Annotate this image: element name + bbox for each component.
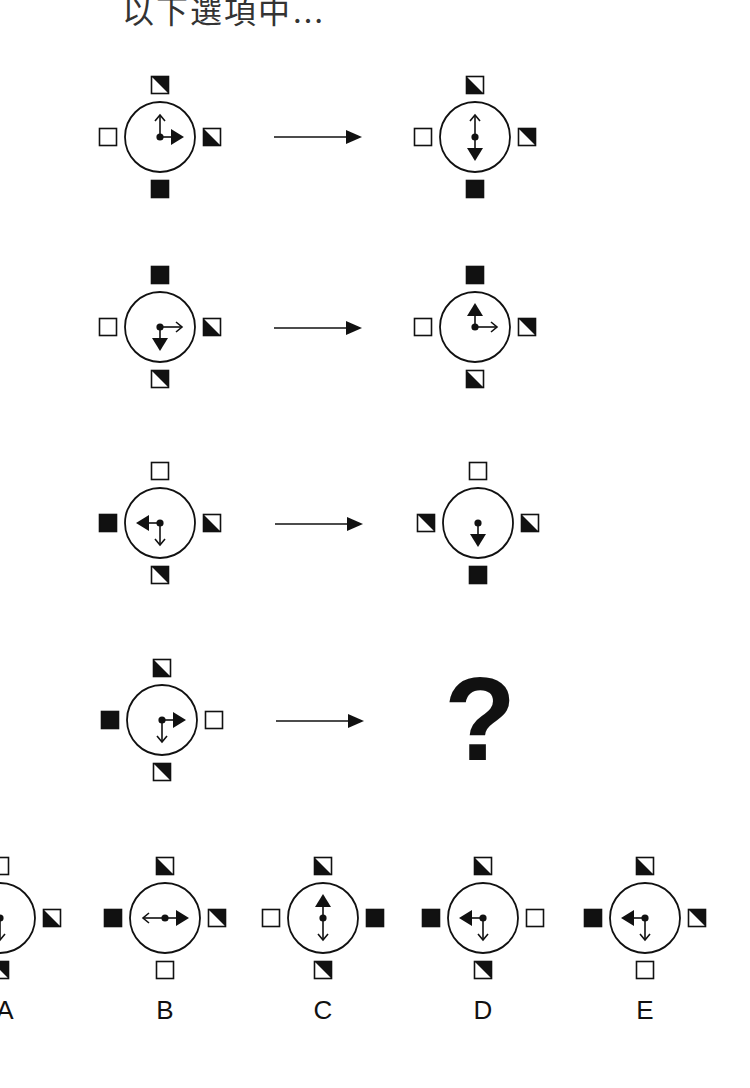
option-a-label[interactable]: A	[0, 995, 25, 1026]
transform-arrow-icon	[273, 514, 368, 534]
right-square-icon	[44, 910, 61, 927]
left-square-icon	[105, 910, 122, 927]
left-square-icon	[585, 910, 602, 927]
transform-arrow-icon	[272, 318, 367, 338]
top-square-icon	[467, 267, 484, 284]
top-square-icon	[152, 77, 169, 94]
right-square-icon	[204, 515, 221, 532]
row2-right-figure	[410, 262, 540, 392]
row4-left-figure	[97, 655, 227, 785]
right-square-icon	[689, 910, 706, 927]
dial-circle	[0, 883, 35, 953]
left-square-icon	[100, 319, 117, 336]
top-square-icon	[467, 77, 484, 94]
bottom-square-icon	[152, 567, 169, 584]
option-b-label[interactable]: B	[145, 995, 185, 1026]
bottom-square-icon	[470, 567, 487, 584]
pivot-dot-icon	[641, 914, 648, 921]
right-square-icon	[206, 712, 223, 729]
pivot-dot-icon	[319, 914, 326, 921]
pivot-dot-icon	[156, 323, 163, 330]
option-e-figure[interactable]	[580, 853, 710, 983]
transform-arrow-icon	[272, 127, 367, 147]
bottom-square-icon	[315, 962, 332, 979]
pivot-dot-icon	[161, 914, 168, 921]
pivot-dot-icon	[471, 323, 478, 330]
bottom-square-icon	[467, 371, 484, 388]
bottom-square-icon	[154, 764, 171, 781]
bottom-square-icon	[152, 371, 169, 388]
row2-left-figure	[95, 262, 225, 392]
pivot-dot-icon	[479, 914, 486, 921]
pivot-dot-icon	[471, 133, 478, 140]
top-square-icon	[475, 858, 492, 875]
left-square-icon	[102, 712, 119, 729]
bottom-square-icon	[475, 962, 492, 979]
bottom-square-icon	[467, 181, 484, 198]
row3-right-figure	[413, 458, 543, 588]
row3-left-figure	[95, 458, 225, 588]
option-d-label[interactable]: D	[463, 995, 503, 1026]
right-square-icon	[519, 129, 536, 146]
right-square-icon	[367, 910, 384, 927]
option-d-figure[interactable]	[418, 853, 548, 983]
top-square-icon	[315, 858, 332, 875]
question-mark: ?	[444, 660, 516, 778]
left-square-icon	[415, 319, 432, 336]
pivot-dot-icon	[474, 519, 481, 526]
left-square-icon	[100, 129, 117, 146]
top-square-icon	[470, 463, 487, 480]
option-e-label[interactable]: E	[625, 995, 665, 1026]
bottom-square-icon	[637, 962, 654, 979]
top-square-icon	[152, 267, 169, 284]
top-square-icon	[154, 660, 171, 677]
right-square-icon	[204, 319, 221, 336]
row1-left-figure	[95, 72, 225, 202]
left-square-icon	[263, 910, 280, 927]
right-square-icon	[522, 515, 539, 532]
pivot-dot-icon	[156, 519, 163, 526]
option-c-label[interactable]: C	[303, 995, 343, 1026]
bottom-square-icon	[157, 962, 174, 979]
right-square-icon	[527, 910, 544, 927]
left-square-icon	[418, 515, 435, 532]
bottom-square-icon	[0, 962, 9, 979]
option-b-figure[interactable]	[100, 853, 230, 983]
pivot-dot-icon	[156, 133, 163, 140]
top-square-icon	[637, 858, 654, 875]
right-square-icon	[209, 910, 226, 927]
left-square-icon	[415, 129, 432, 146]
top-square-icon	[0, 858, 9, 875]
right-square-icon	[204, 129, 221, 146]
left-square-icon	[423, 910, 440, 927]
transform-arrow-icon	[274, 711, 369, 731]
top-square-icon	[152, 463, 169, 480]
option-c-figure[interactable]	[258, 853, 388, 983]
bottom-square-icon	[152, 181, 169, 198]
top-square-icon	[157, 858, 174, 875]
pivot-dot-icon	[158, 716, 165, 723]
row1-right-figure	[410, 72, 540, 202]
right-square-icon	[519, 319, 536, 336]
left-square-icon	[100, 515, 117, 532]
option-a-figure[interactable]	[0, 853, 65, 983]
question-title: 以下選項中…	[122, 0, 326, 32]
